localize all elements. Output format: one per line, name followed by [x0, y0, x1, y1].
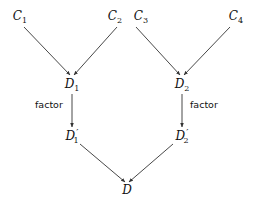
node-d2: D2: [175, 78, 190, 93]
edge-label-factor-left: factor: [35, 100, 63, 110]
node-c3: C3: [134, 10, 148, 25]
node-d2-prime: D′2: [176, 128, 189, 145]
node-d: D: [122, 184, 132, 196]
node-d1: D1: [65, 78, 80, 93]
edge-c2-d1: [74, 27, 117, 75]
edge-c4-d2: [184, 27, 230, 75]
edge-d1prime-d: [80, 144, 125, 182]
edge-c3-d2: [136, 27, 180, 75]
edge-d2prime-d: [129, 144, 173, 182]
node-c4: C4: [229, 10, 243, 25]
edge-c1-d1: [24, 27, 70, 75]
edge-label-factor-right: factor: [190, 100, 218, 110]
node-c2: C2: [108, 10, 122, 25]
node-d1-prime: D′1: [66, 128, 79, 145]
node-c1: C1: [13, 10, 27, 25]
